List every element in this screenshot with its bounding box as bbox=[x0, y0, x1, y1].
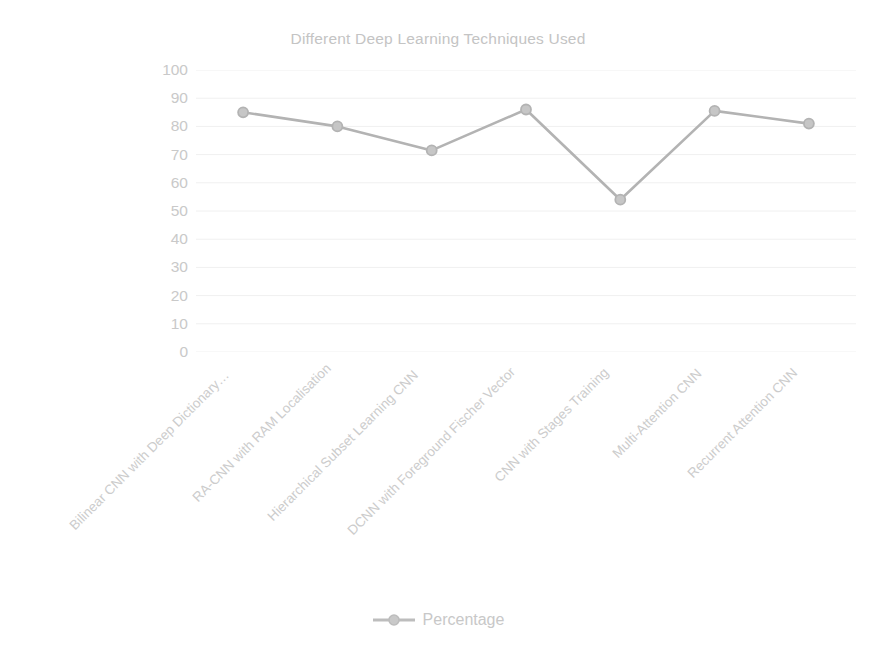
plot-area bbox=[196, 70, 856, 352]
line-chart: Different Deep Learning Techniques Used … bbox=[0, 0, 876, 671]
data-point-marker[interactable] bbox=[332, 121, 342, 131]
y-axis-tick-label: 10 bbox=[140, 316, 188, 332]
y-axis-tick-label: 90 bbox=[140, 90, 188, 106]
x-axis-tick-label: Hierarchical Subset Learning CNN bbox=[265, 368, 420, 523]
x-axis-tick-label: CNN with Stages Training bbox=[492, 366, 611, 485]
y-axis-tick-labels: 1009080706050403020100 bbox=[140, 58, 188, 364]
y-axis-tick-label: 60 bbox=[140, 175, 188, 191]
legend-line-marker-icon bbox=[372, 613, 416, 627]
data-point-marker[interactable] bbox=[427, 145, 437, 155]
data-point-marker[interactable] bbox=[521, 105, 531, 115]
chart-title: Different Deep Learning Techniques Used bbox=[0, 30, 876, 48]
y-axis-tick-label: 100 bbox=[140, 62, 188, 78]
data-point-marker[interactable] bbox=[238, 107, 248, 117]
x-axis-tick-label: Recurrent Attention CNN bbox=[685, 365, 800, 480]
legend-entry-label: Percentage bbox=[423, 612, 505, 628]
y-axis-tick-label: 50 bbox=[140, 203, 188, 219]
x-axis-tick-label: Bilinear CNN with Deep Dictionary… bbox=[67, 369, 231, 533]
x-axis-category-labels: Bilinear CNN with Deep Dictionary…RA-CNN… bbox=[0, 352, 876, 602]
x-axis-tick-label: DCNN with Foreground Fischer Vector bbox=[345, 365, 517, 537]
data-point-marker[interactable] bbox=[710, 106, 720, 116]
data-point-marker[interactable] bbox=[804, 119, 814, 129]
y-axis-tick-label: 30 bbox=[140, 260, 188, 276]
y-axis-tick-label: 20 bbox=[140, 288, 188, 304]
chart-legend: Percentage bbox=[0, 612, 876, 628]
plot-svg bbox=[196, 70, 856, 352]
x-axis-tick-label: Multi-Attention CNN bbox=[610, 367, 704, 461]
y-axis-tick-label: 40 bbox=[140, 231, 188, 247]
y-axis-tick-label: 70 bbox=[140, 147, 188, 163]
y-axis-tick-label: 80 bbox=[140, 119, 188, 135]
data-point-marker[interactable] bbox=[615, 195, 625, 205]
